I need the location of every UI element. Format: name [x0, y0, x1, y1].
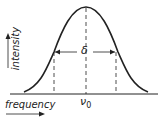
arrowhead-left-icon [55, 50, 60, 55]
x-axis-label: frequency [5, 99, 55, 110]
center-frequency-label: ν0 [80, 95, 91, 110]
width-label: δ [81, 44, 88, 57]
nu-subscript: 0 [86, 101, 91, 110]
arrowhead-right-icon [110, 50, 115, 55]
y-axis-label: intensity [10, 24, 21, 74]
x-arrowhead-icon [39, 112, 45, 117]
